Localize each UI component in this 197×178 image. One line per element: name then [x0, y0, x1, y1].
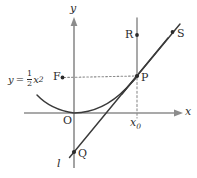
x0-tick-label: x0	[130, 117, 141, 131]
curve-equation-label: y = 1 2 x2	[8, 70, 44, 88]
math-figure: y x O F P Q R S l x0 y = 1 2 x2	[0, 0, 197, 178]
figure-canvas	[0, 0, 197, 178]
y-axis-label: y	[70, 3, 76, 14]
equation-denominator: 2	[27, 79, 32, 89]
x-axis-label: x	[185, 106, 191, 117]
point-S-label: S	[177, 28, 185, 39]
equation-numerator: 1	[27, 70, 32, 79]
x0-subscript: 0	[136, 122, 141, 131]
point-Q-dot	[72, 150, 76, 154]
y-axis	[71, 17, 78, 168]
line-l-label: l	[57, 158, 61, 169]
equation-lhs: y	[8, 74, 14, 85]
point-P-label: P	[141, 72, 148, 83]
point-F-label: F	[53, 71, 61, 82]
point-P-dot	[135, 74, 139, 78]
equation-equals: =	[16, 74, 24, 85]
point-S-dot	[171, 30, 175, 34]
point-R-label: R	[125, 29, 133, 40]
equation-fraction: 1 2	[27, 70, 32, 88]
point-R-dot	[135, 33, 139, 37]
point-Q-label: Q	[78, 148, 87, 159]
dotted-focal-chord-FP	[64, 76, 136, 78]
point-F-dot	[61, 76, 65, 80]
origin-label: O	[63, 115, 72, 126]
equation-exponent: 2	[39, 75, 44, 84]
